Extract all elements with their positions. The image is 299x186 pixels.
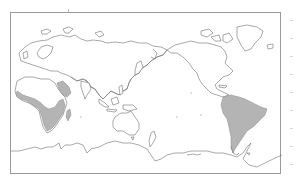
baffin-island	[223, 33, 233, 43]
philippines-landmass	[119, 85, 123, 95]
island-dot	[190, 92, 191, 93]
island-dot	[80, 116, 81, 117]
tick-mark	[290, 56, 293, 57]
falkland-islands	[247, 153, 250, 155]
north-america-landmass	[167, 41, 233, 97]
arctic-archipelago-1	[201, 29, 213, 37]
frame-top-tick	[68, 9, 69, 13]
tick-mark	[290, 92, 293, 93]
india-landmass	[81, 81, 91, 99]
tick-mark	[290, 74, 293, 75]
tick-mark	[290, 20, 293, 21]
tick-mark	[290, 128, 293, 129]
island-dot	[176, 116, 177, 117]
antarctica-coastline	[11, 141, 282, 167]
tick-mark	[290, 146, 293, 147]
greenland-landmass	[237, 25, 263, 51]
severnaya-landmass	[95, 31, 104, 37]
tick-mark	[290, 38, 293, 39]
iceland-landmass	[267, 44, 273, 49]
java-landmass	[107, 109, 117, 112]
world-map-frame	[10, 12, 281, 174]
new-guinea-landmass	[123, 105, 137, 111]
svalbard-landmass	[41, 29, 51, 34]
borneo-landmass	[111, 97, 119, 105]
island-dot	[200, 114, 201, 115]
tasmania-landmass	[131, 137, 134, 140]
new-zealand-landmass	[149, 131, 156, 147]
novaya-zemlya-landmass	[63, 27, 73, 33]
world-map	[11, 13, 282, 175]
south-america-shaded-range	[221, 95, 267, 153]
madagascar-shaded	[66, 109, 71, 121]
cuba-landmass	[219, 85, 227, 88]
tick-mark	[290, 110, 293, 111]
antarctic-peninsula-detail	[187, 154, 201, 155]
arctic-archipelago-2	[211, 35, 221, 41]
australia-landmass	[113, 111, 139, 135]
tick-mark	[290, 164, 293, 165]
sumatra-landmass	[99, 99, 109, 107]
right-edge-ticks	[290, 20, 294, 170]
